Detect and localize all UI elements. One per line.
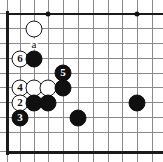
black-stone[interactable] — [26, 51, 43, 68]
black-stone[interactable] — [129, 95, 146, 112]
point-marker-a[interactable]: a — [31, 39, 38, 50]
grid-line-horizontal — [0, 43, 163, 44]
grid-line-vertical — [93, 0, 94, 162]
grid-line-vertical — [78, 0, 79, 162]
stone-move-number: 4 — [17, 82, 23, 93]
hoshi-top-left-star-point — [46, 12, 51, 17]
grid-line-vertical — [122, 0, 123, 162]
stone-move-number: 3 — [17, 112, 23, 123]
grid-line-horizontal — [0, 28, 163, 29]
board-edge-left — [6, 11, 9, 155]
board-edge-bottom — [6, 151, 163, 154]
grid-line-vertical — [137, 0, 138, 162]
black-stone[interactable] — [55, 80, 72, 97]
stone-move-number: 6 — [17, 53, 23, 64]
grid-line-horizontal — [0, 132, 163, 133]
go-board-diagram: 65423a — [0, 0, 163, 162]
black-stone[interactable] — [40, 95, 57, 112]
black-stone-3[interactable]: 3 — [12, 110, 29, 127]
stone-move-number: 2 — [17, 97, 23, 108]
grid-line-vertical — [108, 0, 109, 162]
black-stone[interactable] — [70, 110, 87, 127]
white-stone[interactable] — [26, 21, 43, 38]
stone-move-number: 5 — [60, 67, 66, 78]
hoshi-top-right-star-point — [135, 12, 140, 17]
grid-line-horizontal — [0, 73, 163, 74]
grid-line-vertical — [152, 0, 153, 162]
